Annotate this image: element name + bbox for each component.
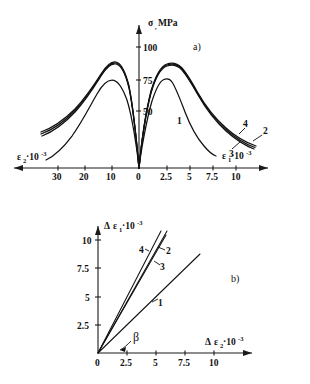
panel-a-ytick-75: 75 [143,76,153,86]
panel-a-label-4: 4 [243,119,248,129]
panel-a-y-axis-title-comma: , [155,23,157,30]
panel-a-y-axis-title-unit: MPa [158,18,178,28]
panel-b-x-axis-title: Δ ε 2 ·10 -3 [205,335,244,350]
panel-b-xtick-5: 5 [153,358,158,368]
panel-b-label-4: 4 [139,245,144,255]
panel-b-line-1 [98,254,200,353]
panel-b: 10 7.5 5 2.5 0 2.5 5 7.5 10 Δ ε 1 ·10 - [77,219,252,369]
panel-a-xtick-10: 10 [231,172,241,182]
panel-b-y-axis-title: Δ ε 1 ·10 -3 [104,219,143,234]
panel-b-xtick-2p5: 2.5 [120,358,132,368]
panel-a-x-left-title-exp: ·10 [26,152,39,162]
panel-b-label: b) [231,273,239,285]
panel-a-xtick-left-20: 20 [79,172,89,182]
panel-a-label-1: 1 [177,116,182,126]
panel-b-y-title-sup: -3 [137,219,143,226]
panel-a-xtick-2p5: 2.5 [160,172,172,182]
panel-b-label-2: 2 [166,246,171,256]
panel-a: 100 75 50 σ , MPa a) 2.5 5 7.5 10 [14,18,268,182]
panel-a-xtick-left-10: 10 [106,172,116,182]
panel-a-xtick-0: 0 [136,172,141,182]
panel-a-x-left-title-eps: ε [17,152,21,162]
panel-a-ytick-100: 100 [143,43,158,53]
panel-b-y-axis [95,226,101,353]
panel-b-ytick-7p5: 7.5 [77,264,89,274]
panel-b-line-4 [98,231,161,353]
panel-a-x-right-title-sup: -3 [246,149,252,156]
panel-b-beta-annotation: β [120,330,139,352]
panel-a-y-axis-title: σ , MPa [148,18,178,30]
panel-b-y-title-eps: ε [113,221,117,231]
panel-b-beta-label: β [133,330,139,344]
panel-a-y-axis-title-sigma: σ [148,18,154,28]
panel-b-label-1: 1 [158,298,163,308]
panel-a-x-left-axis-title: ε 2 ·10 -3 [17,150,47,165]
panel-b-ytick-5: 5 [85,293,90,303]
panel-b-ytick-2p5: 2.5 [77,321,89,331]
panel-b-xtick-0: 0 [95,358,100,368]
panel-a-x-right-title-eps: ε [222,151,226,161]
panel-b-xtick-7p5: 7.5 [178,358,190,368]
panel-a-xtick-7p5: 7.5 [206,172,218,182]
figure-container: 100 75 50 σ , MPa a) 2.5 5 7.5 10 [0,0,310,384]
panel-b-x-title-sup: -3 [238,335,244,342]
panel-a-label-2: 2 [263,126,268,136]
panel-a-xtick-5: 5 [187,172,192,182]
panel-b-ytick-10: 10 [82,236,92,246]
panel-a-curve-2-left [41,62,139,168]
scientific-figure: 100 75 50 σ , MPa a) 2.5 5 7.5 10 [0,0,310,384]
panel-b-x-title-delta: Δ [205,337,211,347]
panel-a-xtick-left-30: 30 [52,172,62,182]
panel-a-x-left-title-sup: -3 [41,150,47,157]
panel-a-label: a) [193,41,201,53]
panel-b-x-title-eps: ε [214,337,218,347]
panel-b-x-title-exp: ·10 [223,337,236,347]
panel-a-x-right-axis-title: ε 1 ·10 -3 [222,149,252,164]
panel-b-y-title-delta: Δ [104,221,110,231]
panel-a-label-3: 3 [229,149,234,159]
panel-b-label-3: 3 [160,262,165,272]
panel-b-xtick-10: 10 [209,358,219,368]
panel-a-x-axis [14,165,268,171]
panel-b-y-title-exp: ·10 [122,221,135,231]
panel-a-curve-4-left [41,63,139,168]
panel-b-x-axis [98,350,252,356]
